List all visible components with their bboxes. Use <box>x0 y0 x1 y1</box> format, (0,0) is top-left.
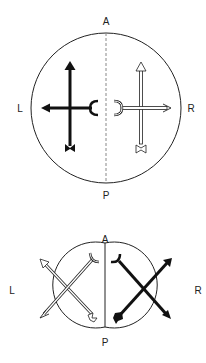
label-left-bottom: L <box>9 285 15 296</box>
label-right-top: R <box>187 103 194 114</box>
left-circle <box>53 242 105 328</box>
white-diagonal-arrow-1-icon <box>40 259 97 322</box>
label-anterior-top: A <box>103 16 110 27</box>
right-circle <box>105 242 157 328</box>
label-right-bottom: R <box>194 285 201 296</box>
label-posterior-top: P <box>103 190 110 201</box>
diagram-canvas: A P L R <box>0 0 206 363</box>
white-diagonal-arrow-2-icon <box>40 253 99 318</box>
top-figure: A P L R <box>17 16 194 201</box>
bottom-figure: A P L R <box>9 234 201 348</box>
label-left-top: L <box>17 103 23 114</box>
black-diagonal-arrow-1-icon <box>111 254 171 319</box>
label-posterior-bottom: P <box>102 337 109 348</box>
label-anterior-bottom: A <box>102 234 109 245</box>
